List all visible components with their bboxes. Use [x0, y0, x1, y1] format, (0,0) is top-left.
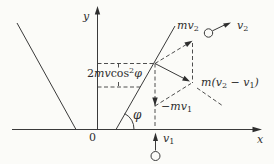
neg-mv1-label: −mv1 [161, 101, 192, 112]
left-wall-line [17, 23, 76, 130]
momentum-change-label: m(v2 − v1) [201, 77, 259, 88]
mv2-label: mv2 [177, 20, 199, 31]
mv2-arrowhead [184, 41, 192, 47]
v2-label: v2 [237, 20, 248, 31]
x-axis-label: x [257, 134, 263, 145]
mv2-vector-line [155, 44, 188, 64]
v1-arrowhead [153, 133, 158, 142]
ball-before-collision-circle [151, 152, 160, 161]
x-axis-arrowhead [253, 127, 263, 132]
v2-arrowhead [223, 23, 231, 28]
momentum-change-arrowhead [182, 76, 190, 82]
physics-diagram: y x 0 φ 2mvcos2φ mv2 v2 m(v2 − v1) −mv1 … [0, 0, 274, 164]
y-axis-label: y [83, 11, 89, 22]
phi-angle-label: φ [133, 109, 141, 121]
ball-after-collision-circle [204, 29, 212, 37]
momentum-change-line [155, 64, 184, 79]
v1-label: v1 [163, 133, 174, 144]
v2-vector-line [213, 25, 226, 31]
projection-value-label: 2mvcos2φ [87, 68, 142, 79]
momentum-change-extension [197, 88, 223, 106]
y-axis-arrowhead [95, 6, 100, 15]
origin-label: 0 [89, 132, 96, 143]
